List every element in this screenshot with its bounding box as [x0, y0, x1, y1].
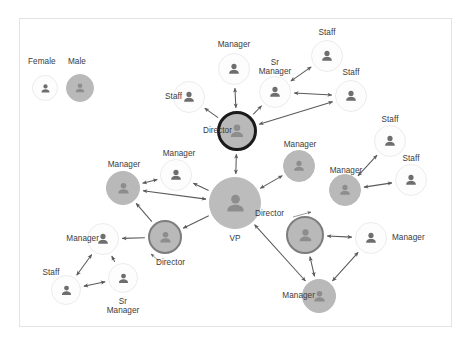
edge-director-top-to-manager-top	[235, 88, 236, 108]
node-label-vp: VP	[215, 234, 255, 243]
edge-vp-to-director-top	[236, 154, 237, 174]
node-label-manager: Manager	[206, 40, 262, 49]
edge-director-right-to-manager-farrt	[327, 236, 352, 237]
edge-director-top-to-staff-topleft	[205, 108, 218, 117]
node-label-manager: Manager	[41, 234, 99, 243]
node-label-manager: Manager	[257, 291, 315, 300]
edge-srmanager-top-to-staff-topright2	[294, 93, 332, 95]
node-label-manager: Manager	[318, 166, 374, 175]
legend-female-label: Female	[28, 57, 56, 66]
node-label-director: Director	[176, 126, 232, 135]
node-director[interactable]	[148, 220, 182, 254]
node-vp[interactable]	[209, 177, 261, 229]
node-label-staff: Staff	[391, 154, 431, 163]
node-label-manager: Manager	[96, 160, 152, 169]
node-label-staff: Staff	[370, 115, 410, 124]
diagram-canvas: DirectorManagerStaffSr ManagerStaffStaff…	[0, 0, 471, 346]
node-label-staff: Staff	[31, 268, 71, 277]
edge-srmanager-bot-to-manager-botleft	[112, 256, 115, 262]
edge-director-top-to-srmanager-top	[253, 106, 261, 115]
node-label-staff: Staff	[307, 28, 347, 37]
node-director[interactable]	[286, 216, 324, 254]
node-label-sr-manager: Sr Manager	[254, 58, 296, 76]
edge-vp-to-manager-midleft	[193, 183, 208, 190]
node-staff[interactable]	[395, 164, 427, 196]
node-label-director: Director	[156, 258, 212, 267]
node-manager[interactable]	[329, 174, 361, 206]
node-staff[interactable]	[335, 80, 367, 112]
node-manager[interactable]	[355, 222, 387, 254]
node-manager[interactable]	[106, 171, 140, 205]
legend-female-swatch[interactable]	[32, 75, 58, 101]
edge-vp-to-director-left	[183, 216, 209, 228]
node-sr-manager[interactable]	[108, 263, 138, 293]
edge-director-left-to-manager-botleft	[122, 238, 145, 239]
edge-director-right-to-manager-bottom	[310, 257, 315, 277]
node-manager[interactable]	[160, 159, 192, 191]
node-label-staff: Staff	[142, 92, 182, 101]
node-label-director: Director	[255, 209, 311, 218]
node-staff[interactable]	[374, 125, 406, 157]
edge-vp-to-manager-left	[143, 191, 206, 199]
edge-manager-right-to-staff-right2	[364, 183, 392, 187]
node-manager[interactable]	[218, 53, 250, 85]
edge-director-left-to-manager-left	[136, 203, 152, 221]
edge-srmanager-bot-to-staff-botleft	[84, 282, 105, 287]
node-label-sr-manager: Sr Manager	[102, 297, 144, 315]
edge-manager-farrt-to-manager-bottom	[332, 252, 358, 281]
node-sr-manager[interactable]	[259, 76, 291, 108]
node-label-staff: Staff	[331, 68, 371, 77]
node-staff[interactable]	[51, 275, 81, 305]
edge-manager-botleft-to-staff-botleft	[77, 255, 92, 276]
legend-male-swatch[interactable]	[66, 74, 94, 102]
edge-vp-to-manager-midrt	[260, 176, 282, 189]
node-label-manager: Manager	[272, 140, 328, 149]
edge-manager-midleft-to-manager-left	[143, 180, 158, 184]
legend-male-label: Male	[68, 57, 86, 66]
node-label-manager: Manager	[392, 233, 448, 242]
node-manager[interactable]	[283, 150, 315, 182]
node-label-manager: Manager	[151, 149, 207, 158]
